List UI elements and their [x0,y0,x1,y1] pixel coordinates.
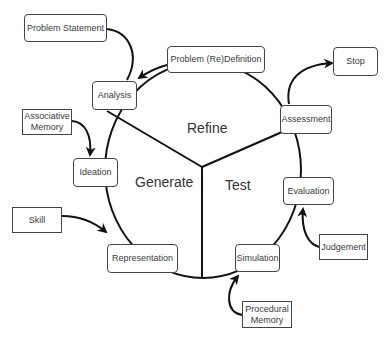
node-associative-memory: Associative Memory [22,109,72,135]
node-problem-statement: Problem Statement [24,14,107,42]
node-evaluation: Evaluation [283,177,334,205]
node-analysis: Analysis [92,81,137,110]
edge-problem-statement-analysis [107,29,133,80]
divider-refine-test [202,132,282,167]
region-label-generate: Generate [135,174,193,190]
node-skill: Skill [12,207,62,233]
region-label-refine: Refine [187,120,227,136]
region-label-test: Test [225,177,251,193]
node-problem-redefinition: Problem (Re)Definition [167,46,265,73]
node-ideation: Ideation [73,158,118,187]
edge-procedural-simulation [229,276,242,315]
node-procedural-memory: Procedural Memory [242,301,292,328]
edge-skill-representation [62,216,106,232]
node-judgement: Judgement [319,234,368,260]
node-assessment: Assessment [280,105,332,134]
edge-associative-ideation [72,121,90,155]
edge-judgement-evaluation [303,209,319,247]
node-representation: Representation [107,244,178,273]
node-simulation: Simulation [235,244,280,272]
edge-assessment-stop [288,63,332,104]
node-stop: Stop [333,47,378,76]
